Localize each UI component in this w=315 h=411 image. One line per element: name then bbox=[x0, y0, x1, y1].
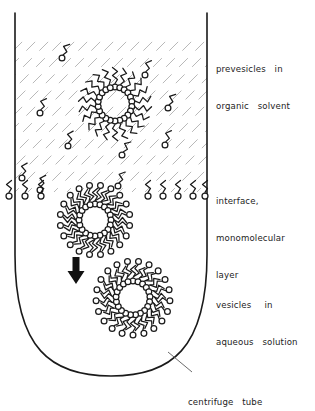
hatch-line bbox=[91, 42, 100, 51]
hatch-line bbox=[4, 156, 13, 165]
hatch-line bbox=[182, 172, 191, 181]
hatch-line bbox=[43, 91, 52, 100]
label-vesicles-line1: vesicles in bbox=[216, 299, 298, 311]
free-molecule bbox=[165, 94, 176, 111]
hatch-line bbox=[98, 9, 107, 18]
hatch-line bbox=[4, 91, 13, 100]
hatch-line bbox=[176, 204, 185, 213]
hatch-line bbox=[39, 42, 48, 51]
molecule-head bbox=[58, 212, 64, 218]
molecule-tail bbox=[93, 189, 98, 201]
molecule-head bbox=[59, 55, 65, 61]
hatch-line bbox=[52, 172, 61, 181]
hatch-line bbox=[0, 172, 9, 181]
hatch-line bbox=[286, 172, 295, 181]
hatch-line bbox=[241, 9, 250, 18]
molecule-tail bbox=[86, 81, 100, 91]
hatch-line bbox=[169, 172, 178, 181]
hatch-line bbox=[0, 139, 3, 148]
hatch-line bbox=[69, 156, 78, 165]
molecule-head bbox=[162, 142, 168, 148]
hatch-line bbox=[186, 91, 195, 100]
hatch-line bbox=[166, 188, 175, 197]
hatch-line bbox=[59, 74, 68, 83]
hatch-line bbox=[56, 156, 65, 165]
molecule-head bbox=[98, 252, 104, 258]
hatch-line bbox=[290, 91, 299, 100]
hatch-line bbox=[49, 58, 58, 67]
molecule-head bbox=[87, 252, 93, 258]
hatch-line bbox=[88, 0, 97, 2]
molecule-tail bbox=[115, 218, 127, 223]
hatch-line bbox=[127, 188, 136, 197]
hatch-line bbox=[36, 58, 45, 67]
label-interface-line2: monomolecular bbox=[216, 232, 285, 244]
hatch-line bbox=[225, 26, 234, 35]
free-surfactant-molecules bbox=[19, 44, 176, 193]
hatch-line bbox=[179, 58, 188, 67]
bilayer-outer-molecule bbox=[130, 320, 136, 338]
hatch-line bbox=[111, 139, 120, 148]
hatch-line bbox=[299, 42, 308, 51]
label-prevesicles: prevesicles in organic solvent bbox=[216, 38, 290, 137]
hatch-line bbox=[182, 42, 191, 51]
hatch-line bbox=[160, 221, 169, 230]
hatch-line bbox=[36, 0, 45, 2]
hatch-line bbox=[163, 9, 172, 18]
molecule-head bbox=[125, 259, 131, 265]
hatch-line bbox=[95, 221, 104, 230]
hatch-line bbox=[91, 172, 100, 181]
hatch-line bbox=[238, 156, 247, 165]
hatch-line bbox=[179, 123, 188, 132]
molecule-head bbox=[202, 193, 208, 199]
hatch-line bbox=[296, 0, 305, 2]
label-vesicles: vesicles in aqueous solution bbox=[216, 274, 298, 373]
hatch-line bbox=[293, 74, 302, 83]
hatch-line bbox=[95, 26, 104, 35]
molecule-head bbox=[67, 192, 73, 198]
hatch-line bbox=[69, 26, 78, 35]
hatch-line bbox=[189, 204, 198, 213]
hatch-line bbox=[43, 26, 52, 35]
hatch-line bbox=[296, 58, 305, 67]
hatch-line bbox=[0, 58, 6, 67]
label-vesicles-line2: aqueous solution bbox=[216, 336, 298, 348]
molecule-head bbox=[105, 268, 111, 274]
hatch-line bbox=[277, 26, 286, 35]
molecule-head bbox=[127, 223, 133, 229]
hatch-line bbox=[33, 139, 42, 148]
molecule-head bbox=[117, 242, 123, 248]
hatch-line bbox=[108, 156, 117, 165]
molecule-head bbox=[101, 318, 107, 324]
hatch-line bbox=[156, 172, 165, 181]
hatch-line bbox=[277, 156, 286, 165]
hatch-line bbox=[30, 156, 39, 165]
hatch-line bbox=[306, 74, 315, 83]
hatch-line bbox=[299, 172, 308, 181]
hatch-line bbox=[267, 9, 276, 18]
molecule-head bbox=[65, 143, 71, 149]
hatch-line bbox=[199, 221, 208, 230]
hatch-line bbox=[244, 0, 253, 2]
molecule-tail bbox=[138, 318, 144, 330]
hatch-line bbox=[65, 42, 74, 51]
aqueous-bilayer-vesicle bbox=[93, 259, 173, 338]
hatch-line bbox=[20, 9, 29, 18]
molecule-head bbox=[162, 277, 168, 283]
hatch-line bbox=[251, 26, 260, 35]
monomolecular-layer bbox=[6, 180, 208, 199]
molecule-tail bbox=[113, 125, 118, 141]
monolayer-molecule bbox=[190, 180, 196, 199]
hatch-line bbox=[160, 91, 169, 100]
hatch-line bbox=[309, 0, 315, 2]
hatch-line bbox=[254, 9, 263, 18]
molecule-tail bbox=[64, 218, 76, 223]
hatch-line bbox=[293, 9, 302, 18]
hatch-line bbox=[59, 9, 68, 18]
hatch-line bbox=[23, 123, 32, 132]
hatch-line bbox=[20, 204, 29, 213]
hatch-line bbox=[176, 74, 185, 83]
hatch-line bbox=[52, 107, 61, 116]
hatch-line bbox=[267, 139, 276, 148]
molecule-head bbox=[94, 287, 100, 293]
